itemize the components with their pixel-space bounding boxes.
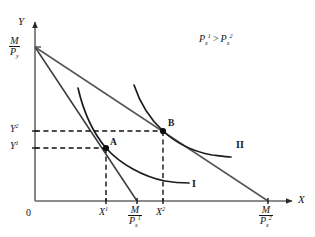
diagram-canvas xyxy=(0,0,315,237)
indifference-curve-figure: Y X 0 M Py Y2 Y1 X1 M Px1 X2 M Px2 A B I… xyxy=(0,0,315,237)
point-label-a: A xyxy=(110,138,117,148)
y-axis-label: Y xyxy=(18,16,24,27)
x-tick-fraction-budget1: M Px1 xyxy=(128,205,142,226)
indifference-curve-I xyxy=(78,88,189,183)
curve-label-ii: II xyxy=(236,140,244,150)
budget2-numerator: M xyxy=(259,205,273,215)
point-marker-b xyxy=(160,128,166,134)
curve-label-i: I xyxy=(192,179,196,189)
x-tick-label-x2: X2 xyxy=(156,207,165,217)
point-label-b: B xyxy=(168,119,174,129)
y-intercept-fraction-label: M Py xyxy=(9,36,20,57)
budget1-denominator: Px1 xyxy=(128,215,142,226)
indifference-curve-II xyxy=(134,85,231,157)
origin-label: 0 xyxy=(26,208,31,218)
point-marker-a xyxy=(103,145,109,151)
budget1-numerator: M xyxy=(128,205,142,215)
x-tick-label-x1: X1 xyxy=(99,207,108,217)
budget-line-1 xyxy=(35,47,137,201)
y-tick-label-y2: Y2 xyxy=(10,124,19,134)
x-tick-fraction-budget2: M Px2 xyxy=(259,205,273,226)
y-intercept-denominator: Py xyxy=(9,46,20,57)
y-intercept-numerator: M xyxy=(9,36,20,46)
x-axis-label: X xyxy=(298,194,305,205)
budget2-denominator: Px2 xyxy=(259,215,273,226)
y-tick-label-y1: Y1 xyxy=(10,141,19,151)
price-inequality-annotation: Px1>Px2 xyxy=(199,34,233,44)
